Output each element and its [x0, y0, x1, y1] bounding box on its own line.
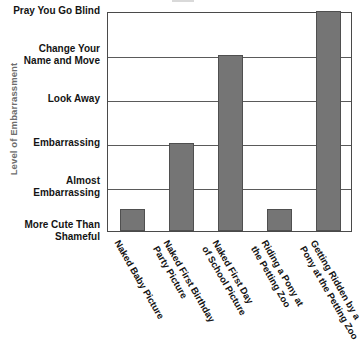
bars-group: [108, 13, 351, 231]
bar: [218, 55, 243, 231]
y-axis-tick-label: Change YourName and Move: [0, 43, 100, 68]
y-axis-tick-label: Embarrassing: [0, 137, 100, 150]
y-axis-tick-label-line: Embarrassing: [0, 187, 100, 200]
bar: [316, 11, 341, 231]
plot-area: [107, 12, 352, 232]
y-axis-tick-label: Pray You Go Blind: [0, 5, 100, 18]
y-axis-tick-label-line: Almost: [0, 175, 100, 188]
bar: [267, 209, 292, 231]
y-axis-tick-label-line: Pray You Go Blind: [0, 5, 100, 18]
y-axis-tick-label-line: More Cute Than: [0, 219, 100, 232]
cropped-title-remnant: [172, 0, 194, 2]
y-axis-tick-label-line: Name and Move: [0, 55, 100, 68]
bar: [169, 143, 194, 231]
y-axis-tick-label: Look Away: [0, 93, 100, 106]
y-axis-tick-label-line: Change Your: [0, 43, 100, 56]
y-axis-tick-label-line: Look Away: [0, 93, 100, 106]
embarrassment-bar-chart: Level of Embarrassment More Cute ThanSha…: [0, 0, 364, 350]
bar: [120, 209, 145, 231]
x-axis-tick-labels: Naked Baby PictureNaked First Birthday P…: [0, 232, 364, 350]
y-axis-tick-label: AlmostEmbarrassing: [0, 175, 100, 200]
y-axis-tick-label-line: Embarrassing: [0, 137, 100, 150]
